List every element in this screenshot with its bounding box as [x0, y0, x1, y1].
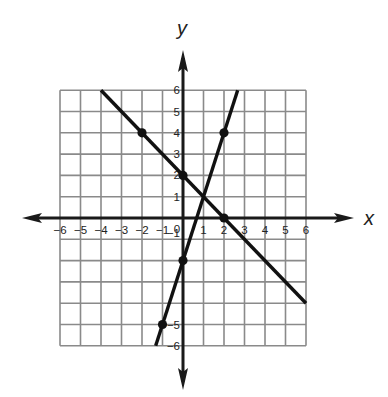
x-tick-label: −2 [135, 224, 148, 236]
data-point [158, 320, 167, 329]
x-tick-label: 6 [303, 224, 309, 236]
x-tick-label: −3 [115, 224, 128, 236]
x-tick-label: −6 [53, 224, 66, 236]
axes [22, 50, 354, 390]
y-tick-label: 5 [174, 106, 180, 118]
y-tick-label: 4 [174, 127, 181, 139]
y-tick-label: −1 [167, 227, 180, 239]
y-tick-label: −6 [167, 340, 180, 352]
x-tick-label: 1 [200, 224, 206, 236]
data-point [178, 171, 187, 180]
data-point [219, 213, 228, 222]
data-point [178, 256, 187, 265]
y-tick-label: 3 [174, 148, 180, 160]
x-tick-label: −4 [94, 224, 108, 236]
x-tick-label: 3 [241, 224, 247, 236]
y-axis-label: y [175, 17, 188, 39]
data-point [219, 128, 228, 137]
x-tick-label: 4 [262, 224, 269, 236]
data-point [137, 128, 146, 137]
y-tick-label: −5 [167, 319, 180, 331]
coordinate-plane: −6−5−4−3−2−10123456654321−1−5−6 x y [0, 0, 388, 397]
x-tick-label: −5 [74, 224, 87, 236]
x-axis-label: x [363, 207, 375, 229]
x-tick-label: 2 [221, 224, 227, 236]
y-tick-label: 6 [174, 84, 180, 96]
y-tick-label: 1 [174, 191, 180, 203]
x-tick-label: 5 [282, 224, 288, 236]
